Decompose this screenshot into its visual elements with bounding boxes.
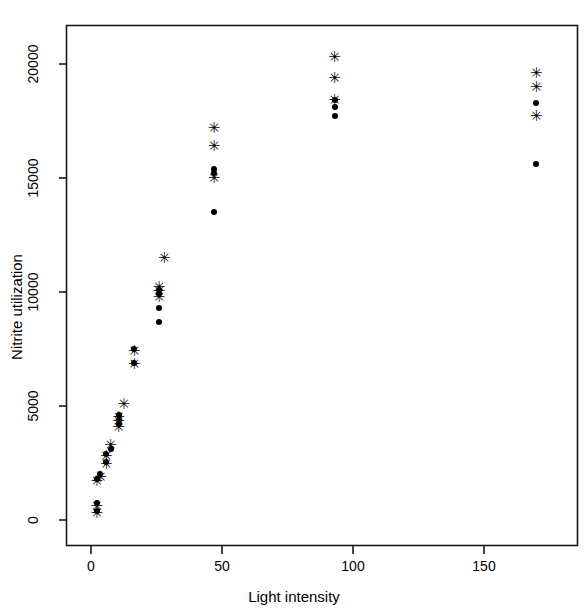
y-axis-title: Nitrite utilization — [8, 0, 30, 614]
x-tick-label: 0 — [87, 558, 95, 574]
x-tick-label: 100 — [341, 558, 364, 574]
scatter-plot-figure: ✳✳✳✳✳✳✳✳✳✳✳✳✳✳✳✳✳✳✳✳✳✳✳✳✳✳ 0500010000150… — [0, 0, 588, 614]
x-tick-label: 50 — [214, 558, 230, 574]
x-axis-title: Light intensity — [0, 588, 588, 605]
x-tick-label-layer: 050100150 — [0, 0, 588, 614]
x-tick-label: 150 — [472, 558, 495, 574]
